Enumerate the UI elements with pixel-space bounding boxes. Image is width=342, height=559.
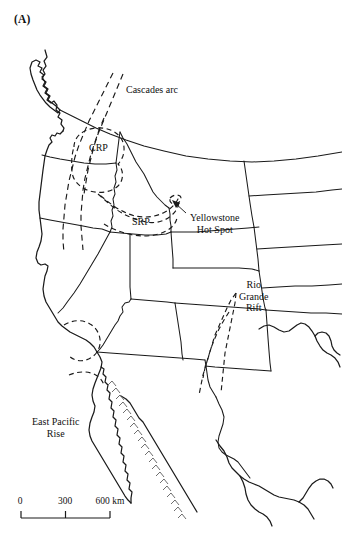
scale-label-600: 600 km (96, 496, 125, 506)
label-east-pacific-rise: East Pacific Rise (32, 416, 79, 439)
gulf-of-mexico-coast (216, 440, 314, 519)
figure-panel-a: (A) (0, 0, 342, 559)
nevada-utah-border (130, 234, 131, 299)
nebraska-kansas-border (262, 284, 342, 288)
new-mexico-texas-east-step (266, 310, 271, 371)
eastern-mexico-coast (240, 476, 272, 526)
us-canada-border (60, 110, 342, 162)
label-cascades-arc: Cascades arc (126, 84, 178, 96)
new-mexico-texas-border (205, 360, 216, 397)
gulf-coast-tail (299, 479, 333, 502)
washington-oregon-border (42, 155, 116, 164)
oregon-idaho-border (110, 163, 117, 232)
label-crp: CRP (89, 142, 108, 154)
label-rio-grande-rift: Rio Grande Rift (239, 279, 268, 314)
south-dakota-nebraska-border (257, 244, 342, 249)
utah-arizona-border (131, 299, 175, 303)
southern-california-dashed-boundary (64, 321, 100, 361)
us-mexico-border-rio-grande (216, 397, 250, 478)
scale-bar-rule (20, 510, 120, 520)
scale-bar-labels: 0 300 600 km (20, 496, 130, 509)
california-arizona-border (97, 299, 131, 352)
wyoming-colorado-border (171, 232, 173, 268)
scale-label-300: 300 (58, 496, 72, 506)
label-srp: SRP (132, 216, 150, 228)
rio-grande-rift-east-line (221, 293, 236, 393)
oregon-southern-border (40, 218, 110, 232)
mexico-mainland-coast (121, 396, 197, 512)
scale-label-0: 0 (18, 496, 23, 506)
label-yellowstone-hot-spot: Yellowstone Hot Spot (190, 212, 240, 235)
idaho-montana-border (120, 132, 169, 208)
dakota-border (249, 189, 342, 196)
scale-bar: 0 300 600 km (20, 496, 130, 520)
oklahoma-panhandle-north (266, 310, 342, 314)
rio-grande-rift-west-line (199, 293, 236, 395)
cascades-arc-line-inner (81, 118, 104, 250)
colorado-north-border (173, 268, 259, 271)
arizona-new-mexico-border (175, 303, 183, 360)
us-mexico-border-west (97, 352, 205, 360)
east-coast-upper (259, 323, 340, 367)
montana-east-border (244, 161, 254, 227)
california-nevada-border (58, 232, 110, 313)
british-columbia-coast (42, 50, 64, 131)
texas-panhandle-west (205, 366, 271, 371)
pacific-coastline (36, 131, 97, 352)
